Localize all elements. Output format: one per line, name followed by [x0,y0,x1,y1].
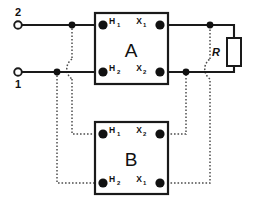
wire-a-x2-to-resistor-bottom [160,64,234,72]
terminal-b-h2-label: H [109,174,115,184]
terminal-b-x2-dot [155,129,164,138]
junction-line2 [69,22,76,29]
wire-hop-right [205,59,210,79]
terminal-b-x1-dot [155,178,164,187]
wire-a-x1-to-resistor-top [160,25,234,40]
terminal-a-h2-label: H [109,63,115,73]
terminal-a-x1-dot [155,20,164,29]
junction-line1 [54,69,61,76]
junction-x1-bus [207,22,214,29]
transformer-schematic-diagram: R A H 1 X 1 H 2 X 2 B H 1 X 2 H 2 X 1 [0,0,262,205]
resistor-body [227,38,241,66]
terminal-a-h1-label: H [109,16,115,26]
terminal-b-x1-label: X [136,174,142,184]
schematic-canvas: R A H 1 X 1 H 2 X 2 B H 1 X 2 H 2 X 1 [0,0,262,205]
terminal-a-h1-dot [98,20,107,29]
source-terminal-2-circle[interactable] [14,21,22,29]
terminal-a-h2-dot [98,67,107,76]
source-terminal-2-label: 2 [15,6,21,18]
resistor-label: R [212,46,220,58]
terminal-a-x2-dot [155,67,164,76]
junction-x2-bus [183,69,190,76]
source-terminal-1-label: 1 [15,78,21,90]
terminal-b-h1-dot [98,129,107,138]
source-terminal-1-circle[interactable] [14,68,22,76]
terminal-a-x1-label: X [136,16,142,26]
transformer-a-label: A [125,40,138,61]
wire-hop-left [67,59,72,79]
terminal-b-h1-label: H [109,125,115,135]
terminal-b-h2-dot [98,178,107,187]
transformer-b-label: B [125,149,138,170]
terminal-b-x2-label: X [136,125,142,135]
terminal-a-x2-label: X [136,63,142,73]
